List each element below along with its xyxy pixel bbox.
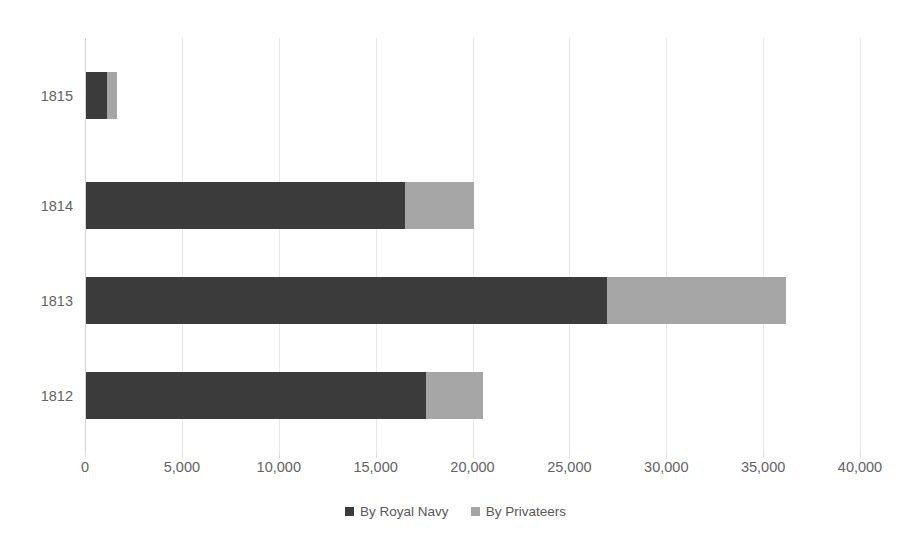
gridline-25000 bbox=[569, 38, 570, 452]
x-tick-mark-35000 bbox=[763, 452, 764, 458]
bar-segment-1814-royal-navy[interactable] bbox=[85, 182, 405, 229]
bar-segment-1812-privateers[interactable] bbox=[426, 372, 483, 419]
x-tick-label-25000: 25,000 bbox=[547, 460, 591, 475]
x-tick-label-10000: 10,000 bbox=[257, 460, 301, 475]
legend-label-privateers: By Privateers bbox=[486, 505, 566, 519]
legend-swatch-privateers bbox=[471, 507, 480, 516]
x-axis-label-group: 0 5,000 10,000 15,000 20,000 25,000 30,0… bbox=[0, 460, 911, 486]
legend-label-royal-navy: By Royal Navy bbox=[360, 505, 449, 519]
y-axis-label-group: 1815 1814 1813 1812 bbox=[0, 38, 73, 452]
x-tick-label-30000: 30,000 bbox=[644, 460, 688, 475]
x-tick-mark-25000 bbox=[569, 452, 570, 458]
x-tick-label-35000: 35,000 bbox=[741, 460, 785, 475]
y-tick-label-1812: 1812 bbox=[11, 389, 73, 404]
y-tick-label-1814: 1814 bbox=[11, 199, 73, 214]
x-tick-label-5000: 5,000 bbox=[164, 460, 200, 475]
x-tick-mark-30000 bbox=[666, 452, 667, 458]
x-tick-label-15000: 15,000 bbox=[353, 460, 397, 475]
gridline-35000 bbox=[763, 38, 764, 452]
x-tick-mark-40000 bbox=[860, 452, 861, 458]
bar-segment-1812-royal-navy[interactable] bbox=[85, 372, 426, 419]
bar-segment-1815-privateers[interactable] bbox=[107, 72, 117, 119]
x-tick-mark-0 bbox=[85, 452, 86, 458]
x-tick-label-20000: 20,000 bbox=[450, 460, 494, 475]
y-tick-label-1813: 1813 bbox=[11, 294, 73, 309]
chart-container: 1815 1814 1813 1812 0 5,000 10,000 15,00… bbox=[0, 0, 911, 551]
x-tick-label-0: 0 bbox=[81, 460, 89, 475]
gridline-30000 bbox=[666, 38, 667, 452]
chart-legend: By Royal Navy By Privateers bbox=[0, 505, 911, 519]
x-tick-mark-5000 bbox=[182, 452, 183, 458]
bar-segment-1814-privateers[interactable] bbox=[405, 182, 474, 229]
bar-segment-1815-royal-navy[interactable] bbox=[85, 72, 107, 119]
bar-segment-1813-royal-navy[interactable] bbox=[85, 277, 607, 324]
legend-item-privateers[interactable]: By Privateers bbox=[471, 505, 566, 519]
y-axis-line bbox=[85, 38, 86, 452]
x-tick-mark-10000 bbox=[279, 452, 280, 458]
gridline-40000 bbox=[860, 38, 861, 452]
bar-segment-1813-privateers[interactable] bbox=[607, 277, 786, 324]
y-tick-label-1815: 1815 bbox=[11, 89, 73, 104]
x-tick-mark-20000 bbox=[473, 452, 474, 458]
legend-swatch-royal-navy bbox=[345, 507, 354, 516]
x-tick-label-40000: 40,000 bbox=[838, 460, 882, 475]
legend-item-royal-navy[interactable]: By Royal Navy bbox=[345, 505, 449, 519]
x-tick-mark-15000 bbox=[376, 452, 377, 458]
plot-area bbox=[85, 38, 860, 452]
